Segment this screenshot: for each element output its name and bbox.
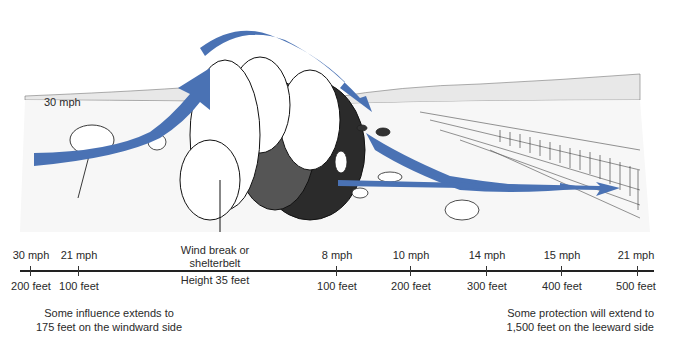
distance-label: 200 feet — [391, 280, 431, 293]
axis-tick — [78, 266, 79, 276]
distance-label: 300 feet — [467, 280, 507, 293]
axis-tick — [637, 266, 638, 276]
distance-label: 400 feet — [542, 280, 582, 293]
distance-label: 200 feet — [11, 280, 51, 293]
speed-label: 21 mph — [61, 249, 98, 262]
axis-tick — [336, 266, 337, 276]
windbreak-label-line2: shelterbelt — [190, 257, 241, 270]
axis-tick — [410, 266, 411, 276]
speed-label: 30 mph — [13, 249, 50, 262]
windward-note-line2: 175 feet on the windward side — [24, 320, 194, 334]
distance-label: 100 feet — [317, 280, 357, 293]
windward-note-line1: Some influence extends to — [24, 306, 194, 320]
speed-label: 15 mph — [544, 249, 581, 262]
distance-axis — [20, 270, 654, 272]
distance-label: 500 feet — [616, 280, 656, 293]
speed-label: 14 mph — [469, 249, 506, 262]
axis-tick — [30, 266, 31, 276]
windbreak-scene-illustration — [0, 0, 674, 235]
distance-label: 100 feet — [59, 280, 99, 293]
leeward-note-line2: 1,500 feet on the leeward side — [494, 320, 654, 334]
windbreak-height: Height 35 feet — [181, 274, 250, 287]
axis-tick — [561, 266, 562, 276]
windbreak-label-line1: Wind break or — [181, 244, 249, 257]
speed-label: 10 mph — [393, 249, 430, 262]
axis-tick — [486, 266, 487, 276]
leeward-note: Some protection will extend to 1,500 fee… — [494, 306, 654, 334]
windward-speed-label: 30 mph — [44, 96, 81, 108]
leeward-note-line1: Some protection will extend to — [494, 306, 654, 320]
windward-note: Some influence extends to 175 feet on th… — [24, 306, 194, 334]
speed-label: 8 mph — [322, 249, 353, 262]
speed-label: 21 mph — [618, 249, 655, 262]
